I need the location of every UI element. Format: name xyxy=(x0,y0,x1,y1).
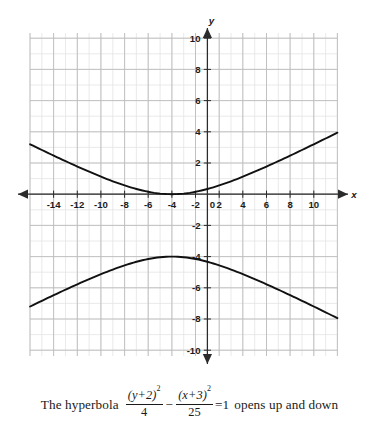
y-tick-label: 4 xyxy=(195,126,201,137)
x-tick-label: -8 xyxy=(120,199,129,210)
fraction-2-denominator: 25 xyxy=(186,406,203,420)
caption-line: The hyperbola (y+2)2 4 − (x+3)2 25 =1 op… xyxy=(41,389,338,420)
caption-lead: The hyperbola xyxy=(41,397,119,413)
numerator-2-exponent: 2 xyxy=(207,384,211,393)
coordinate-plane: -14 -12 -10 -8 -6 -4 -2 2 4 6 8 10 0 10 … xyxy=(0,0,379,375)
y-axis-arrow-up xyxy=(203,28,212,38)
y-axis-label: y xyxy=(208,15,215,26)
y-tick-label: 10 xyxy=(190,33,201,44)
x-tick-label: -2 xyxy=(191,199,200,210)
fraction-1-denominator: 4 xyxy=(139,406,149,420)
worksheet-page: -14 -12 -10 -8 -6 -4 -2 2 4 6 8 10 0 10 … xyxy=(0,0,379,431)
y-tick-label: 8 xyxy=(195,64,201,75)
y-axis-arrow-down xyxy=(203,354,212,364)
x-axis-arrow-left xyxy=(18,190,28,199)
x-axis-arrow-right xyxy=(338,190,348,199)
x-tick-label: -12 xyxy=(70,199,84,210)
numerator-1-text: (y+2) xyxy=(128,388,157,402)
y-tick-label: -10 xyxy=(187,345,201,356)
x-axis-label: x xyxy=(350,189,357,200)
fraction-2-numerator: (x+3)2 xyxy=(176,389,213,403)
x-tick-label: -10 xyxy=(94,199,108,210)
numerator-1-exponent: 2 xyxy=(156,384,160,393)
hyperbola-graph-figure: -14 -12 -10 -8 -6 -4 -2 2 4 6 8 10 0 10 … xyxy=(0,0,379,375)
caption-operator: − xyxy=(166,397,174,413)
caption-block: The hyperbola (y+2)2 4 − (x+3)2 25 =1 op… xyxy=(0,378,379,431)
y-tick-label: 2 xyxy=(195,157,200,168)
x-tick-label: -4 xyxy=(168,199,177,210)
x-tick-label: 4 xyxy=(240,199,246,210)
x-tick-label: 10 xyxy=(308,199,319,210)
y-tick-label: 6 xyxy=(195,95,200,106)
origin-label: 0 xyxy=(210,199,215,210)
y-tick-label: -8 xyxy=(192,313,201,324)
y-tick-label: -6 xyxy=(192,282,201,293)
caption-tail: opens up and down xyxy=(234,397,338,413)
x-tick-label: 8 xyxy=(287,199,293,210)
numerator-2-text: (x+3) xyxy=(178,388,207,402)
axes xyxy=(18,28,348,364)
y-tick-label: -2 xyxy=(192,220,201,231)
x-tick-label: 6 xyxy=(264,199,269,210)
fraction-term-2: (x+3)2 25 xyxy=(176,389,213,420)
caption-equals: =1 xyxy=(215,397,229,413)
x-tick-label: -14 xyxy=(47,199,62,210)
x-tick-label: -6 xyxy=(144,199,153,210)
fraction-1-numerator: (y+2)2 xyxy=(126,389,163,403)
x-tick-label: 2 xyxy=(217,199,222,210)
fraction-term-1: (y+2)2 4 xyxy=(126,389,163,420)
